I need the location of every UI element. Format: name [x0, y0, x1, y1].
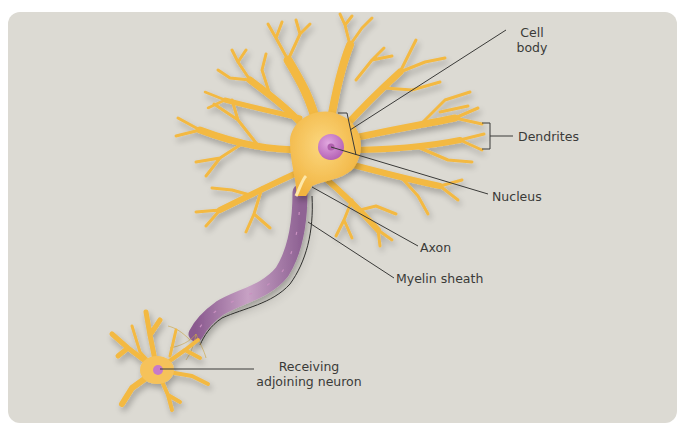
myelin-sheath-label: Myelin sheath	[396, 271, 483, 286]
dendrites-bracket	[482, 123, 513, 149]
cell-body-label: Cell body	[506, 25, 558, 55]
axon-label: Axon	[420, 240, 451, 255]
receiving-neuron-label: Receiving adjoining neuron	[250, 359, 368, 389]
nucleus-label: Nucleus	[492, 189, 542, 204]
dendrites-label: Dendrites	[518, 129, 579, 144]
axon-leader	[312, 187, 418, 246]
receiving-nucleus	[153, 365, 163, 375]
